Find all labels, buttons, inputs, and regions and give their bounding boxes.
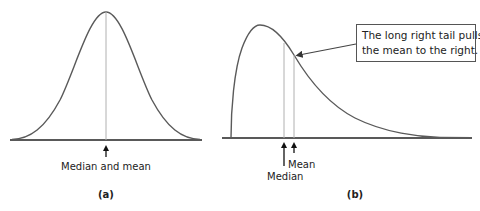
callout-line-1: The long right tail pulls	[362, 28, 471, 43]
callout-connector	[299, 44, 356, 55]
panel-a	[10, 12, 202, 157]
median-arrow-icon	[281, 142, 287, 166]
median-mean-arrow-icon	[103, 145, 109, 157]
median-and-mean-label: Median and mean	[61, 161, 151, 172]
callout-box: The long right tail pulls the mean to th…	[356, 24, 476, 62]
mean-arrow-icon	[291, 142, 297, 153]
caption-a: (a)	[98, 189, 114, 200]
caption-b: (b)	[347, 189, 363, 200]
callout-line-2: the mean to the right.	[362, 43, 471, 58]
mean-label: Mean	[288, 159, 315, 170]
median-label: Median	[267, 171, 303, 182]
